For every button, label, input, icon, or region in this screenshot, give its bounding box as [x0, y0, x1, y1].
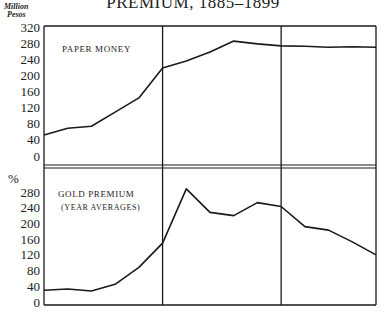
y-tick-label: 160: [21, 232, 41, 247]
y-tick-label: 240: [21, 200, 41, 215]
y-tick-label: 40: [27, 279, 40, 294]
y-tick-label: 200: [21, 216, 41, 231]
gold-premium-label: GOLD PREMIUM: [58, 189, 134, 199]
y-tick-label: 40: [27, 132, 40, 147]
top-y-axis-ticks: 04080120160200240280320: [21, 20, 41, 164]
y-tick-label: 160: [21, 84, 41, 99]
y-tick-label: 120: [21, 100, 41, 115]
y-tick-label: 320: [21, 20, 41, 35]
chart-canvas: 04080120160200240280320 0408012016020024…: [0, 0, 386, 319]
y-tick-label: 240: [21, 52, 41, 67]
y-tick-label: 0: [34, 295, 41, 310]
year-averages-label: (YEAR AVERAGES): [61, 203, 140, 212]
paper-money-label: PAPER MONEY: [62, 44, 131, 54]
y-tick-label: 200: [21, 68, 41, 83]
y-tick-label: 280: [21, 185, 41, 200]
y-tick-label: 120: [21, 247, 41, 262]
bottom-y-axis-ticks: 04080120160200240280: [21, 185, 41, 310]
y-tick-label: 280: [21, 36, 41, 51]
chart-frame: [44, 26, 376, 305]
y-tick-label: 80: [27, 116, 40, 131]
bottom-unit-label: %: [8, 171, 19, 186]
paper-money-line: [44, 41, 376, 135]
y-tick-label: 80: [27, 263, 40, 278]
y-tick-label: 0: [34, 149, 41, 164]
